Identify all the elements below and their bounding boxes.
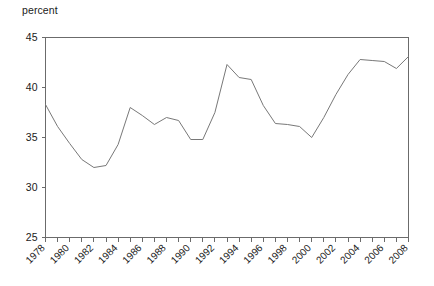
x-axis-tick-label: 1994	[217, 242, 241, 266]
chart-plot-area: 2530354045 19781980198219841986198819901…	[0, 0, 434, 286]
x-axis-tick-label: 2000	[290, 242, 314, 266]
y-axis-tick-label: 45	[26, 31, 38, 43]
x-axis-tick-label: 1992	[193, 242, 217, 266]
y-axis-tick-label: 35	[26, 131, 38, 143]
y-axis: 2530354045	[26, 31, 409, 243]
x-axis-tick-label: 2002	[314, 242, 338, 266]
x-axis-tick-label: 1978	[23, 242, 47, 266]
x-axis-tick-label: 1984	[96, 242, 120, 266]
data-series-group	[46, 57, 409, 168]
x-axis-tick-label: 1996	[241, 242, 265, 266]
x-axis-tick-label: 2006	[362, 242, 386, 266]
x-axis-tick-label: 1998	[265, 242, 289, 266]
y-axis-tick-label: 40	[26, 81, 38, 93]
x-axis-tick-label: 1980	[48, 242, 72, 266]
series-line-percent	[46, 57, 409, 168]
y-axis-tick-label: 25	[26, 231, 38, 243]
x-axis: 1978198019821984198619881990199219941996…	[23, 238, 410, 266]
line-chart: percent 2530354045 197819801982198419861…	[0, 0, 434, 286]
x-axis-tick-label: 1986	[120, 242, 144, 266]
x-axis-tick-label: 2008	[386, 242, 410, 266]
x-axis-tick-label: 1988	[144, 242, 168, 266]
x-axis-tick-label: 2004	[338, 242, 362, 266]
x-axis-tick-label: 1982	[72, 242, 96, 266]
x-axis-tick-label: 1990	[169, 242, 193, 266]
y-axis-tick-label: 30	[26, 181, 38, 193]
